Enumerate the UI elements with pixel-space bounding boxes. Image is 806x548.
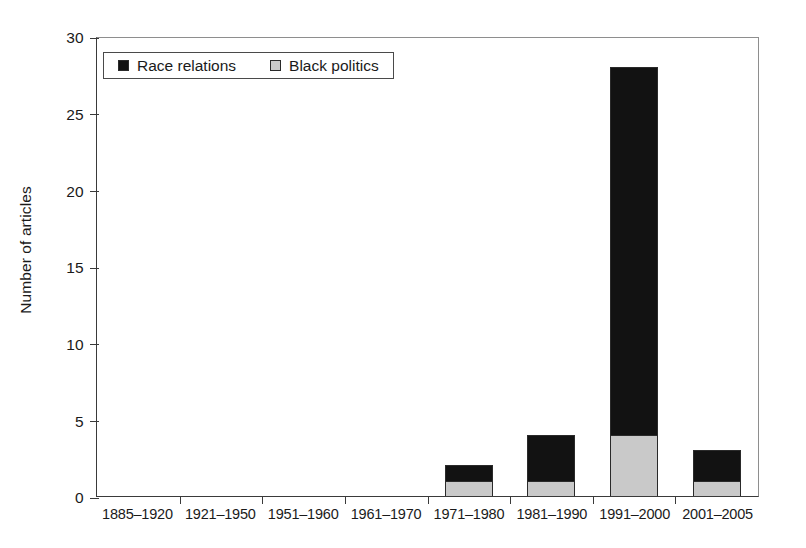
chart-figure: Number of articles 051015202530 1885–192…: [0, 0, 806, 548]
legend-item: Race relations: [118, 58, 236, 74]
x-axis-tick-label: 1991–2000: [593, 506, 676, 522]
stacked-bar: [610, 67, 658, 496]
legend-swatch-black: [118, 60, 129, 71]
legend-swatch-gray: [270, 60, 281, 71]
x-axis-tick-mark: [262, 496, 263, 504]
y-axis-tick-label: 25: [66, 107, 89, 123]
legend-label: Race relations: [137, 58, 236, 74]
x-axis-tick-label: 1971–1980: [428, 506, 511, 522]
x-axis-tick-label: 1885–1920: [96, 506, 179, 522]
bar-segment: [445, 481, 493, 496]
x-axis-tick-mark: [428, 496, 429, 504]
bar-segment: [610, 67, 658, 435]
y-axis-tick-label: 5: [75, 414, 90, 430]
x-axis-tick-mark: [593, 496, 594, 504]
x-axis-tick-mark: [180, 496, 181, 504]
y-axis-tick-label: 10: [66, 337, 89, 353]
bar-segment: [610, 435, 658, 496]
x-axis-tick-mark: [510, 496, 511, 504]
bar-segment: [445, 465, 493, 480]
stacked-bar: [527, 435, 575, 496]
bar-segment: [527, 481, 575, 496]
y-axis-tick-label: 15: [66, 260, 89, 276]
y-axis-tick-label: 20: [66, 184, 89, 200]
y-axis-tick-label: 30: [66, 30, 89, 46]
bar-category: [593, 38, 676, 496]
y-axis-tick-label: 0: [75, 490, 90, 506]
plot-area: 051015202530: [96, 37, 759, 497]
bar-category: [675, 38, 758, 496]
y-axis-title: Number of articles: [12, 0, 40, 500]
bar-category: [180, 38, 263, 496]
bar-category: [428, 38, 511, 496]
bar-category: [262, 38, 345, 496]
x-axis-tick-mark: [345, 496, 346, 504]
bar-segment: [693, 450, 741, 481]
x-axis-tick-mark: [675, 496, 676, 504]
legend-label: Black politics: [289, 58, 379, 74]
y-axis-title-text: Number of articles: [17, 186, 35, 314]
bar-series-group: [97, 38, 758, 496]
bar-category: [510, 38, 593, 496]
x-axis-tick-label: 2001–2005: [676, 506, 759, 522]
legend-item: Black politics: [270, 58, 379, 74]
stacked-bar: [693, 450, 741, 496]
stacked-bar: [445, 465, 493, 496]
bar-category: [97, 38, 180, 496]
x-axis-tick-label: 1951–1960: [262, 506, 345, 522]
y-axis-tick-mark: [90, 498, 99, 499]
x-axis-tick-label: 1981–1990: [510, 506, 593, 522]
x-axis-tick-labels: 1885–19201921–19501951–19601961–19701971…: [96, 506, 759, 522]
x-axis-tick-label: 1961–1970: [345, 506, 428, 522]
bar-segment: [693, 481, 741, 496]
chart-legend: Race relationsBlack politics: [103, 52, 394, 79]
x-axis-tick-label: 1921–1950: [179, 506, 262, 522]
bar-segment: [527, 435, 575, 481]
bar-category: [345, 38, 428, 496]
